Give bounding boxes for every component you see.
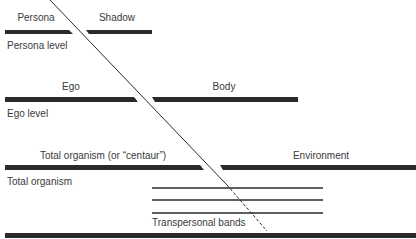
ego-level-label: Ego level <box>7 108 48 120</box>
shadow-bar <box>86 30 152 34</box>
persona-level-label: Persona level <box>7 40 68 52</box>
total-organism-centaur-label: Total organism (or “centaur”) <box>40 150 166 162</box>
diagram-graphics <box>0 0 416 239</box>
transpersonal-bands-label: Transpersonal bands <box>152 217 246 229</box>
spectrum-diagram: Persona Shadow Persona level Ego Body Eg… <box>0 0 416 239</box>
body-label: Body <box>213 81 236 93</box>
ego-label: Ego <box>62 81 80 93</box>
environment-bar <box>220 165 416 170</box>
total-organism-bar <box>5 165 204 170</box>
shadow-label: Shadow <box>99 12 135 24</box>
persona-bar <box>5 30 73 34</box>
persona-label: Persona <box>17 12 54 24</box>
body-bar <box>152 97 298 102</box>
environment-label: Environment <box>293 150 349 162</box>
base-bar <box>5 233 416 238</box>
total-organism-level-label: Total organism <box>7 176 72 188</box>
ego-bar <box>5 97 138 102</box>
